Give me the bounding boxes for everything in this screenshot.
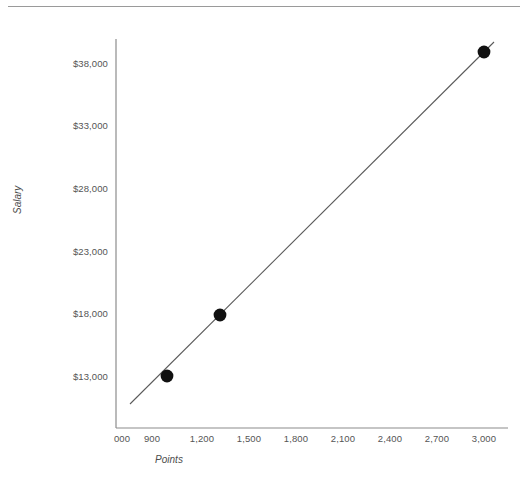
y-axis-title: Salary [12,186,23,214]
salary-vs-points-chart: $38,000 $33,000 $28,000 $23,000 $18,000 … [0,0,528,482]
x-tick-label: 1,500 [237,433,261,444]
x-axis-tick-labels: 000 900 1,200 1,500 1,800 2,100 2,400 2,… [0,0,528,482]
x-tick-label: 1,800 [284,433,308,444]
x-tick-label: 3,000 [472,433,496,444]
x-tick-label: 2,100 [331,433,355,444]
chart-page: $38,000 $33,000 $28,000 $23,000 $18,000 … [0,0,528,482]
x-tick-label: 1,200 [190,433,214,444]
x-axis-title: Points [0,454,528,465]
x-axis-title-text: Points [155,454,183,465]
x-tick-label: 000 [114,433,130,444]
x-tick-label: 2,700 [425,433,449,444]
x-tick-label: 2,400 [378,433,402,444]
x-tick-label: 900 [144,433,160,444]
